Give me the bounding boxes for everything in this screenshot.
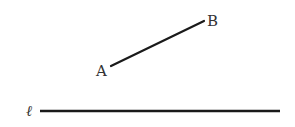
line-ell-label: ℓ — [26, 102, 32, 120]
point-a-label: A — [95, 62, 107, 80]
geometry-figure: A B ℓ — [0, 0, 295, 127]
segment-ab — [111, 21, 204, 66]
point-b-label: B — [207, 12, 218, 30]
